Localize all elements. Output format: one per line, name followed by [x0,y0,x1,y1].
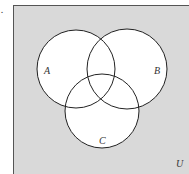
set-c-label: C [99,135,106,146]
set-a-label: A [43,65,51,76]
set-b-label: B [154,65,160,76]
venn-diagram: . A B C U [0,0,189,174]
universe-label: U [176,158,184,169]
item-marker: . [1,4,4,15]
